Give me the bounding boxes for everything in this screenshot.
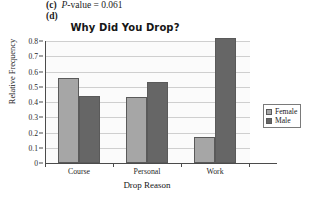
chart-title: Why Did You Drop?: [0, 22, 250, 33]
answer-label-c: (c): [46, 0, 57, 11]
x-tick-mark: [181, 163, 182, 167]
p-value-rest: -value = 0.061: [67, 0, 122, 10]
answer-text-c: P-value = 0.061: [62, 0, 123, 11]
y-tick-label: 0.1: [29, 143, 39, 152]
y-tick-mark: [39, 71, 43, 72]
x-axis-tick-labels: CoursePersonalWork: [45, 166, 249, 180]
bar-work-male: [215, 38, 236, 163]
y-tick-label: 0.6: [29, 67, 39, 76]
bar-work-female: [194, 137, 215, 163]
bars-layer: [45, 41, 249, 163]
y-tick-mark: [39, 56, 43, 57]
y-tick-label: 0.8: [29, 37, 39, 46]
y-tick-label: 0.3: [29, 113, 39, 122]
legend-swatch-male: [266, 118, 272, 124]
x-tick-mark: [113, 163, 114, 167]
bar-chart-figure: Why Did You Drop? Relative Frequency 00.…: [0, 20, 310, 204]
x-axis-title: Drop Reason: [45, 180, 249, 190]
legend-item-female: Female: [266, 107, 297, 116]
bar-course-female: [58, 78, 79, 163]
y-tick-mark: [39, 86, 43, 87]
legend-swatch-female: [266, 109, 272, 115]
x-tick-mark: [45, 163, 46, 167]
y-tick-label: 0.7: [29, 52, 39, 61]
y-tick-label: 0: [34, 159, 38, 168]
y-tick-mark: [39, 163, 43, 164]
answer-row-c: (c) P-value = 0.061: [0, 0, 310, 11]
x-tick-label-personal: Personal: [134, 167, 161, 176]
y-tick-mark: [39, 117, 43, 118]
y-axis-tick-labels: 00.10.20.30.40.50.60.70.8: [0, 41, 43, 163]
x-tick-label-course: Course: [68, 167, 90, 176]
y-tick-label: 0.5: [29, 82, 39, 91]
y-tick-mark: [39, 147, 43, 148]
y-tick-mark: [39, 102, 43, 103]
chart-legend: FemaleMale: [263, 104, 301, 128]
legend-label-female: Female: [275, 107, 297, 116]
bar-personal-female: [126, 97, 147, 163]
y-tick-mark: [39, 132, 43, 133]
x-tick-mark: [249, 163, 250, 167]
y-tick-label: 0.4: [29, 98, 39, 107]
y-tick-label: 0.2: [29, 128, 39, 137]
bar-course-male: [79, 96, 100, 163]
textbook-answer-block: (c) P-value = 0.061 (d): [0, 0, 310, 22]
x-tick-label-work: Work: [206, 167, 223, 176]
legend-label-male: Male: [275, 116, 291, 125]
x-axis-line: [45, 163, 277, 164]
bar-personal-male: [147, 82, 168, 163]
legend-item-male: Male: [266, 116, 297, 125]
y-tick-mark: [39, 41, 43, 42]
